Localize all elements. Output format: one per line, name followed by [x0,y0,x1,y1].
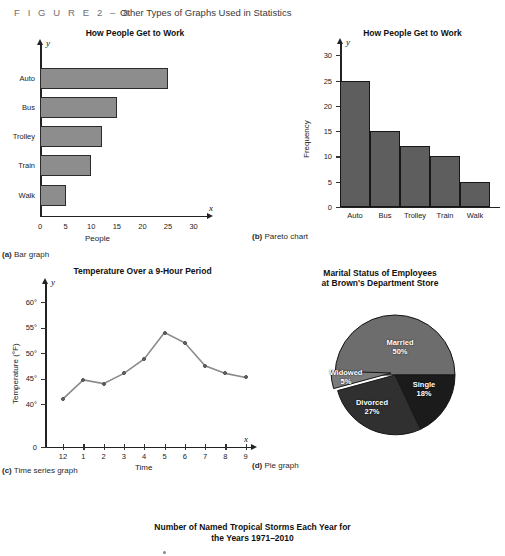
pareto-bar-walk [460,182,490,207]
time-series-title: Temperature Over a 9-Hour Period [50,266,235,276]
pie-label-single-value: 18% [416,389,431,398]
ts-y-tick-mark-45 [41,379,47,380]
bar-category-label-bus: Bus [0,103,35,112]
pareto-y-tick-5: 5 [312,178,332,187]
pareto-bar-bus [370,131,400,207]
bottom-chart-panel: Number of Named Tropical Storms Each Yea… [0,498,505,556]
ts-x-tick-2: 2 [94,452,114,461]
bar-x-tick-20: 20 [133,222,151,231]
pareto-bar-train [430,156,460,207]
ts-x-tick-mark-12 [63,444,64,450]
pareto-panel-caption-text: Pareto chart [262,232,308,241]
ts-panel-caption-letter: (c) [2,466,12,475]
figure-number-label: F I G U R E 2 – 8 [14,7,131,18]
bottom-chart-title-line2: the Years 1971–2010 [211,533,294,543]
ts-y-tick-mark-60 [41,302,47,303]
ts-line-series [0,258,258,473]
ts-point-9 [244,375,248,379]
pareto-category-label-bus: Bus [370,211,400,220]
ts-y-tick-55: 55° [16,323,37,332]
ts-y-axis-arrow-icon [42,278,48,284]
pareto-y-tick-10: 10 [312,152,332,161]
pareto-chart-panel: How People Get to Work y 0 5 10 15 20 25… [250,28,505,260]
pareto-y-tick-0: 0 [312,203,332,212]
bar-x-tick-0: 0 [31,222,49,231]
bar-train [40,155,91,176]
pareto-category-label-train: Train [430,211,460,220]
pareto-y-tick-mark-30 [336,55,342,56]
ts-point-2 [102,382,106,386]
bar-y-axis-arrow-icon [37,39,43,45]
pie-label-single: Single 18% [400,380,448,398]
pie-chart-svg [250,258,505,473]
ts-y-tick-60: 60° [16,298,37,307]
pareto-bar-trolley [400,146,430,207]
pie-panel-caption-text: Pie graph [262,461,298,470]
ts-x-tick-4: 4 [134,452,154,461]
ts-x-tick-6: 6 [175,452,195,461]
bar-trolley [40,126,102,147]
ts-y-tick-0: 0 [16,443,37,452]
ts-y-tick-mark-55 [41,328,47,329]
pareto-category-label-walk: Walk [460,211,490,220]
pie-label-divorced-name: Divorced [356,398,388,407]
ts-x-axis-name: Time [135,463,152,472]
pareto-category-label-trolley: Trolley [400,211,430,220]
ts-x-tick-8: 8 [215,452,235,461]
bar-category-label-train: Train [0,161,35,170]
ts-y-tick-mark-0 [41,447,47,448]
pareto-y-tick-mark-0 [336,207,342,208]
ts-point-8 [223,371,227,375]
pareto-y-axis-variable: y [346,37,350,47]
ts-x-tick-12: 12 [53,452,73,461]
pie-label-married-name: Married [386,338,413,347]
figure-header: F I G U R E 2 – 8 Other Types of Graphs … [14,6,494,24]
ts-y-axis-name: Temperature (°F) [11,343,20,404]
ts-y-axis [45,284,47,448]
bar-x-tick-5: 5 [57,222,75,231]
pie-label-widowed-value: 5% [341,377,352,386]
bar-chart-title: How People Get to Work [40,28,230,38]
ts-x-tick-mark-1 [83,444,84,450]
bar-y-axis-variable: y [46,38,50,48]
ts-panel-caption-text: Time series graph [12,466,78,475]
ts-point-7 [203,364,207,368]
ts-x-tick-mark-6 [185,444,186,450]
bar-category-label-walk: Walk [0,191,35,200]
pie-label-single-name: Single [413,380,436,389]
ts-x-tick-mark-3 [124,444,125,450]
pie-label-divorced: Divorced 27% [346,398,398,416]
pareto-y-tick-30: 30 [312,51,332,60]
ts-x-tick-7: 7 [195,452,215,461]
pareto-y-tick-15: 15 [312,127,332,136]
ts-x-tick-mark-8 [225,444,226,450]
ts-x-tick-mark-7 [205,444,206,450]
figure-title: Other Types of Graphs Used in Statistics [120,7,291,18]
pie-panel-caption: (d) Pie graph [252,461,299,470]
bar-category-label-auto: Auto [0,74,35,83]
bar-graph-panel: How People Get to Work y x Auto Bus Trol… [0,28,250,260]
ts-x-tick-mark-4 [144,444,145,450]
ts-point-1 [81,378,85,382]
ts-x-axis [45,447,252,449]
pie-label-married-value: 50% [392,347,407,356]
bottom-chart-data-point [163,551,166,554]
pareto-panel-caption-letter: (b) [252,232,262,241]
bar-x-axis-name: People [85,234,110,243]
bottom-chart-title-line1: Number of Named Tropical Storms Each Yea… [154,522,350,532]
pareto-category-label-auto: Auto [340,211,370,220]
pareto-chart-title: How People Get to Work [325,28,500,38]
pareto-y-tick-25: 25 [312,77,332,86]
bar-x-axis [40,216,208,218]
bar-x-tick-15: 15 [108,222,126,231]
ts-point-3 [122,371,126,375]
bottom-chart-title: Number of Named Tropical Storms Each Yea… [0,522,505,544]
pie-label-widowed-name: Widowed [330,368,363,377]
ts-panel-caption: (c) Time series graph [2,466,78,475]
ts-point-5 [163,331,167,335]
pareto-y-axis-arrow-icon [337,38,343,44]
ts-x-tick-3: 3 [114,452,134,461]
pareto-y-axis-name: Frequency [302,120,311,158]
ts-point-6 [183,341,187,345]
bar-bus [40,97,117,118]
